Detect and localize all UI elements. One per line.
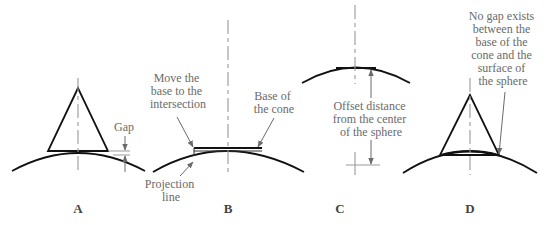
projection-line-leader xyxy=(180,162,193,176)
base-of-cone-leader xyxy=(258,118,274,147)
panel-c-label: C xyxy=(335,201,344,216)
move-base-leader xyxy=(177,117,193,147)
move-base-label: Move the base to the intersection xyxy=(150,71,206,111)
panel-d: No gap exists between the base of the co… xyxy=(403,9,537,216)
no-gap-label: No gap exists between the base of the co… xyxy=(469,9,537,88)
base-of-cone-label: Base of the cone xyxy=(254,89,294,116)
panel-a-label: A xyxy=(73,201,83,216)
cone-on-sphere-diagram: Gap A Move the base to the intersection … xyxy=(0,0,546,225)
panel-b: Move the base to the intersection Base o… xyxy=(145,20,304,216)
sphere-surface-arc xyxy=(302,68,410,84)
no-gap-leader xyxy=(499,92,505,154)
panel-a: Gap A xyxy=(12,78,145,216)
panel-d-label: D xyxy=(465,201,474,216)
panel-c: Offset distance from the center of the s… xyxy=(302,5,410,216)
panel-b-label: B xyxy=(224,201,233,216)
offset-distance-label: Offset distance from the center of the s… xyxy=(333,99,409,139)
projection-line-label: Projection line xyxy=(145,177,197,204)
gap-label: Gap xyxy=(114,120,134,134)
